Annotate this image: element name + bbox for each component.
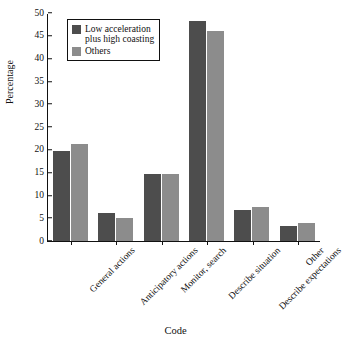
bar <box>98 213 115 241</box>
y-tick-mark <box>48 149 52 150</box>
y-tick-label: 45 <box>35 31 49 41</box>
y-tick-mark <box>48 13 52 14</box>
y-tick-label: 0 <box>39 236 48 246</box>
y-tick-mark <box>48 218 52 219</box>
x-tick-mark <box>71 241 72 245</box>
y-axis-title: Percentage <box>4 60 15 104</box>
y-tick-mark <box>48 195 52 196</box>
y-tick-mark <box>48 81 52 82</box>
y-tick-mark <box>48 172 52 173</box>
bar <box>207 31 224 241</box>
legend-swatch <box>72 25 81 34</box>
bar-group <box>229 14 274 241</box>
x-tick-label: General actions <box>88 246 137 295</box>
bar-chart: Percentage 05101520253035404550 General … <box>0 0 351 348</box>
bar <box>189 21 206 241</box>
bar <box>116 218 133 241</box>
bar <box>53 151 70 241</box>
legend: Low acceleration plus high coastingOther… <box>67 19 160 61</box>
y-tick-mark <box>48 241 52 242</box>
y-tick-mark <box>48 58 52 59</box>
x-tick-mark <box>298 241 299 245</box>
y-tick-label: 20 <box>35 145 49 155</box>
y-tick-label: 15 <box>35 168 49 178</box>
y-tick-label: 35 <box>35 77 49 87</box>
y-tick-label: 10 <box>35 191 49 201</box>
bar <box>162 174 179 241</box>
y-tick-label: 30 <box>35 99 49 109</box>
x-tick-label: Describe situation <box>227 246 282 301</box>
legend-swatch <box>72 47 81 56</box>
bar <box>144 174 161 241</box>
y-tick-mark <box>48 35 52 36</box>
bar <box>252 207 269 241</box>
bar <box>280 226 297 242</box>
y-tick-label: 25 <box>35 122 49 132</box>
bar-group <box>275 14 320 241</box>
y-tick-label: 5 <box>39 213 48 223</box>
legend-item: Others <box>72 46 154 56</box>
x-axis-title: Code <box>0 325 351 336</box>
bar-group <box>184 14 229 241</box>
bar <box>234 210 251 241</box>
bar <box>298 223 315 241</box>
x-tick-mark <box>162 241 163 245</box>
bar <box>71 144 88 241</box>
x-tick-mark <box>253 241 254 245</box>
y-tick-mark <box>48 127 52 128</box>
legend-label: Low acceleration plus high coasting <box>85 24 154 45</box>
legend-item: Low acceleration plus high coasting <box>72 24 154 45</box>
legend-label: Others <box>85 46 110 56</box>
y-tick-mark <box>48 104 52 105</box>
y-tick-label: 50 <box>35 8 49 18</box>
y-tick-label: 40 <box>35 54 49 64</box>
x-tick-mark <box>207 241 208 245</box>
x-tick-mark <box>116 241 117 245</box>
